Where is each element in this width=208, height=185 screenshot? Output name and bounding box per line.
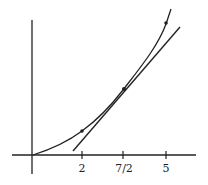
x-tick-label-2: 2	[79, 163, 86, 174]
x-tick-label-5: 5	[163, 163, 170, 174]
convex-curve	[33, 9, 171, 155]
point-at-5	[164, 21, 168, 25]
x-tick-label-7-2: 7/2	[115, 163, 133, 174]
point-at-7-2	[122, 87, 126, 91]
tangent-line	[73, 27, 180, 151]
diagram-canvas	[0, 0, 208, 185]
point-at-2	[80, 129, 84, 133]
